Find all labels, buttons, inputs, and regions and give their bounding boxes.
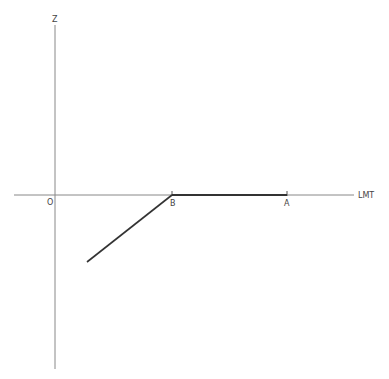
diagram-canvas: Z LMT O B A bbox=[0, 0, 389, 379]
origin-label: O bbox=[47, 198, 53, 207]
point-b-label: B bbox=[170, 199, 176, 208]
lmt-axis-label: LMT bbox=[358, 191, 374, 200]
z-axis-label: Z bbox=[52, 15, 58, 24]
point-a-label: A bbox=[284, 199, 290, 208]
segment-diagonal-to-b bbox=[87, 195, 172, 262]
